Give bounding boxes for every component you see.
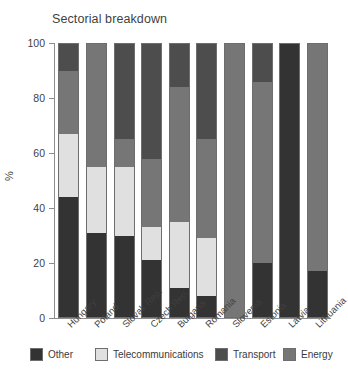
- legend-label: Telecommunications: [113, 349, 204, 360]
- bar-outline: [307, 43, 328, 318]
- bar-stack[interactable]: [169, 43, 190, 318]
- bar-outline: [279, 43, 300, 318]
- y-axis-tick-label: 60: [33, 147, 45, 159]
- y-axis-tick-label: 0: [39, 312, 45, 324]
- bar-stack[interactable]: [58, 43, 79, 318]
- bar-outline: [252, 43, 273, 318]
- legend-color-swatch: [30, 348, 43, 361]
- y-axis-tick-label: 100: [27, 37, 45, 49]
- y-axis-label: %: [3, 171, 15, 181]
- bar-outline: [169, 43, 190, 318]
- legend-item[interactable]: Transport: [215, 348, 275, 361]
- bar-outline: [224, 43, 245, 318]
- bar-stack[interactable]: [196, 43, 217, 318]
- y-axis-tick-mark: [49, 98, 54, 99]
- legend-color-swatch: [215, 348, 228, 361]
- bar-stack[interactable]: [114, 43, 135, 318]
- y-axis-tick-mark: [49, 208, 54, 209]
- bar-stack[interactable]: [141, 43, 162, 318]
- legend-label: Energy: [301, 349, 333, 360]
- bar-outline: [114, 43, 135, 318]
- bar-outline: [58, 43, 79, 318]
- legend-item[interactable]: Energy: [283, 348, 333, 361]
- y-axis-tick-mark: [49, 43, 54, 44]
- bar-stack[interactable]: [279, 43, 300, 318]
- legend-label: Transport: [233, 349, 275, 360]
- y-axis-tick-mark: [49, 153, 54, 154]
- y-axis-tick-label: 40: [33, 202, 45, 214]
- plot-area: 020406080100: [54, 43, 330, 318]
- y-axis-tick-label: 80: [33, 92, 45, 104]
- chart-title: Sectorial breakdown: [52, 12, 167, 26]
- y-axis-tick-mark: [49, 318, 54, 319]
- y-axis-tick-label: 20: [33, 257, 45, 269]
- y-axis-tick-mark: [49, 263, 54, 264]
- legend-item[interactable]: Other: [30, 348, 73, 361]
- legend-label: Other: [48, 349, 73, 360]
- bar-stack[interactable]: [252, 43, 273, 318]
- legend-color-swatch: [283, 348, 296, 361]
- legend-item[interactable]: Telecommunications: [95, 348, 204, 361]
- chart-legend: OtherTelecommunicationsTransportEnergy: [0, 348, 340, 368]
- bar-stack[interactable]: [307, 43, 328, 318]
- bar-stack[interactable]: [224, 43, 245, 318]
- bar-outline: [141, 43, 162, 318]
- legend-color-swatch: [95, 348, 108, 361]
- bar-stack[interactable]: [86, 43, 107, 318]
- bar-outline: [86, 43, 107, 318]
- bar-outline: [196, 43, 217, 318]
